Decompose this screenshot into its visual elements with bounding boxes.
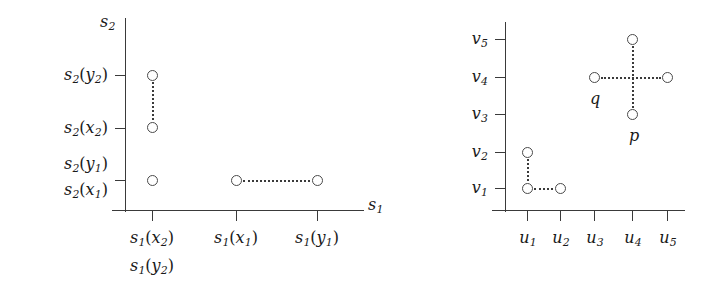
- right-point-label-q: q: [590, 91, 600, 107]
- right-point-label-p: p: [629, 128, 639, 144]
- right-x-tick-label-u4: u4: [613, 230, 653, 249]
- left-x-tick-2: [236, 210, 237, 221]
- right-x-tick-u4: [632, 210, 633, 221]
- right-y-tick-v1: [495, 188, 506, 189]
- left-y-axis: [125, 18, 126, 212]
- left-point-x1-mid: [231, 175, 242, 186]
- right-y-tick-v2: [495, 152, 506, 153]
- left-x-tick-1: [152, 210, 153, 221]
- right-x-tick-label-u3: u3: [575, 230, 615, 249]
- figure-root: s2 s1 s2(y2) s2(x2) s2(y1) s2(x1) s1(x2)…: [0, 0, 718, 305]
- left-point-x1-low: [147, 175, 158, 186]
- left-x-tick-label-s1x2: s1(x2): [106, 230, 198, 249]
- right-point-u4-v3-p: [627, 109, 638, 120]
- right-scatter-panel: v5 v4 v3 v2 v1 u1 u2 u3 u4 u5 q p: [400, 0, 718, 305]
- left-scatter-panel: s2 s1 s2(y2) s2(x2) s2(y1) s2(x1) s1(x2)…: [0, 0, 400, 305]
- right-x-tick-u5: [667, 210, 668, 221]
- left-y-tick-label-s2x1: s2(x1): [20, 182, 108, 201]
- left-y-tick-label-s2x2: s2(x2): [20, 120, 108, 139]
- left-y-axis-label: s2: [100, 14, 115, 33]
- right-x-axis: [492, 210, 685, 211]
- left-y-tick-label-s2y1: s2(y1): [20, 156, 108, 175]
- right-y-tick-label-v2: v2: [440, 144, 488, 163]
- left-y-tick-3: [115, 180, 126, 181]
- left-y-tick-2: [115, 128, 126, 129]
- left-x-tick-label-s1y2: s1(y2): [106, 258, 198, 277]
- right-x-tick-u2: [560, 210, 561, 221]
- left-point-y2: [147, 70, 158, 81]
- right-y-tick-v3: [495, 114, 506, 115]
- right-y-tick-v5: [495, 39, 506, 40]
- right-point-u4-v5: [627, 34, 638, 45]
- right-y-tick-label-v5: v5: [440, 31, 488, 50]
- left-connector-vertical: [152, 82, 154, 120]
- left-point-x2: [147, 122, 158, 133]
- right-point-u1-v2: [522, 147, 533, 158]
- left-x-tick-label-s1x1: s1(x1): [190, 230, 282, 249]
- right-y-axis: [505, 22, 506, 212]
- right-x-tick-u3: [594, 210, 595, 221]
- right-y-tick-label-v4: v4: [440, 69, 488, 88]
- right-point-u1-v1: [522, 183, 533, 194]
- right-y-tick-label-v3: v3: [440, 106, 488, 125]
- left-x-axis: [112, 210, 364, 211]
- left-connector-horizontal: [243, 180, 310, 182]
- right-connector-l-vertical: [527, 159, 529, 181]
- left-y-tick-label-s2y2: s2(y2): [20, 67, 108, 86]
- right-connector-l-horizontal: [534, 188, 553, 190]
- right-point-u5-v4: [662, 72, 673, 83]
- right-connector-cross-horizontal: [601, 77, 661, 79]
- left-x-axis-label: s1: [368, 197, 383, 216]
- left-y-tick-1: [115, 75, 126, 76]
- right-point-u2-v1: [555, 183, 566, 194]
- left-x-tick-3: [317, 210, 318, 221]
- right-x-tick-u1: [527, 210, 528, 221]
- right-x-tick-label-u5: u5: [648, 230, 688, 249]
- right-y-tick-v4: [495, 77, 506, 78]
- left-x-tick-label-s1y1: s1(y1): [271, 230, 363, 249]
- left-point-y1: [312, 175, 323, 186]
- right-point-u3-v4-q: [589, 72, 600, 83]
- right-y-tick-label-v1: v1: [440, 180, 488, 199]
